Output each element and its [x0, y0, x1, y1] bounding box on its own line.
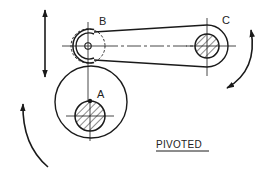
label-b: B — [99, 15, 106, 27]
pivoted-follower-diagram: B C A PIVOTED — [0, 0, 267, 174]
lever-oscillation-arrow — [227, 30, 252, 88]
label-a: A — [97, 88, 105, 100]
diagram-title: PIVOTED — [156, 139, 202, 150]
label-c: C — [222, 14, 230, 26]
cam-rotation-arrow — [23, 104, 48, 167]
contact-point — [88, 99, 92, 103]
